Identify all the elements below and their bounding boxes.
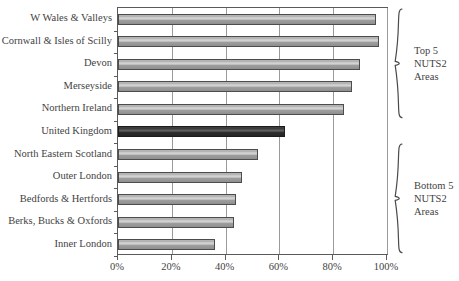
- category-label: North Eastern Scotland: [14, 148, 112, 159]
- x-axis-tick-label: 20%: [161, 261, 180, 273]
- bar: [118, 59, 360, 70]
- category-label: Merseyside: [64, 80, 112, 91]
- bar: [118, 172, 242, 183]
- x-axis-tick-label: 80%: [323, 261, 342, 273]
- bar-row: [118, 121, 387, 144]
- bar: [118, 194, 236, 205]
- bar: [118, 81, 352, 92]
- bar-rows: [118, 8, 387, 254]
- bar: [118, 36, 379, 47]
- x-axis-labels: 0%20%40%60%80%100%: [0, 261, 459, 277]
- category-label: Bedfords & Hertfords: [20, 193, 112, 204]
- annotation-line: Top 5: [414, 44, 447, 57]
- bar: [118, 239, 215, 250]
- bar-row: [118, 53, 387, 76]
- annotation-line: Areas: [414, 205, 453, 218]
- annotation-line: Areas: [414, 70, 447, 83]
- bar-chart: W Wales & ValleysCornwall & Isles of Sci…: [0, 0, 459, 281]
- annotation-line: Bottom 5: [414, 179, 453, 192]
- x-axis-tick: [171, 255, 172, 260]
- bar-row: [118, 166, 387, 189]
- x-axis-tick-label: 0%: [110, 261, 124, 273]
- curly-brace-icon: [392, 8, 406, 119]
- x-axis-tick-label: 40%: [215, 261, 234, 273]
- bar-row: [118, 143, 387, 166]
- curly-brace-icon: [392, 143, 406, 254]
- category-label: Outer London: [53, 170, 112, 181]
- x-axis-ticks: [117, 255, 388, 260]
- bar-row: [118, 188, 387, 211]
- category-label: United Kingdom: [41, 125, 112, 136]
- annotation-line: NUTS2: [414, 192, 453, 205]
- bar: [118, 149, 258, 160]
- bar-row: [118, 233, 387, 256]
- gridline: [387, 8, 388, 254]
- bar: [118, 14, 376, 25]
- category-label: Northern Ireland: [42, 102, 112, 113]
- category-label: Devon: [84, 57, 112, 68]
- bar: [118, 104, 344, 115]
- bar-row: [118, 98, 387, 121]
- x-axis-tick: [332, 255, 333, 260]
- bar: [118, 217, 234, 228]
- bar-row: [118, 31, 387, 54]
- bar-row: [118, 8, 387, 31]
- x-axis-tick: [225, 255, 226, 260]
- bar: [118, 126, 285, 137]
- x-axis-tick: [278, 255, 279, 260]
- x-axis-tick-label: 100%: [374, 261, 399, 273]
- category-label: Berks, Bucks & Oxfords: [8, 215, 112, 226]
- annotation-label: Bottom 5NUTS2Areas: [414, 179, 453, 218]
- plot-area: [117, 7, 388, 255]
- annotation-line: NUTS2: [414, 57, 447, 70]
- bar-row: [118, 211, 387, 234]
- category-axis-labels: W Wales & ValleysCornwall & Isles of Sci…: [0, 7, 115, 255]
- category-label: Inner London: [55, 238, 112, 249]
- category-label: Cornwall & Isles of Scilly: [2, 35, 112, 46]
- bar-row: [118, 76, 387, 99]
- annotation-label: Top 5NUTS2Areas: [414, 44, 447, 83]
- x-axis-tick: [386, 255, 387, 260]
- x-axis-tick: [117, 255, 118, 260]
- category-label: W Wales & Valleys: [30, 12, 112, 23]
- x-axis-tick-label: 60%: [269, 261, 288, 273]
